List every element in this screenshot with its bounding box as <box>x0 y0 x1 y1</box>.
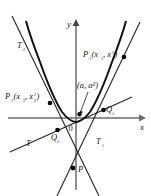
point-p2 <box>48 101 53 106</box>
svg-text:): ) <box>36 91 40 101</box>
y-axis-label: y <box>66 19 71 29</box>
point-p <box>71 166 76 171</box>
svg-text:(x: (x <box>92 49 99 59</box>
svg-text:P: P <box>82 49 88 59</box>
svg-text:2: 2 <box>57 139 59 144</box>
label-a-point: (a, a²) <box>77 80 98 90</box>
svg-text:(x: (x <box>14 91 21 101</box>
svg-text:2: 2 <box>23 47 25 52</box>
point-a <box>77 112 81 116</box>
x-axis-label: x <box>139 122 144 132</box>
svg-text:, x: , x <box>25 91 33 101</box>
origin-label: 0 <box>69 123 73 133</box>
svg-text:, x: , x <box>103 49 111 59</box>
svg-text:P: P <box>4 91 10 101</box>
svg-text:1: 1 <box>102 143 104 148</box>
math-figure: y x 0 T 2 T 1 T Q 1 Q 2 P P 1 (x 1 , x 1… <box>0 0 151 196</box>
parabola-tangent-diagram: y x 0 T 2 T 1 T Q 1 Q 2 P P 1 (x 1 , x 1… <box>0 0 151 196</box>
svg-text:1: 1 <box>112 111 114 116</box>
label-p: P <box>77 164 83 174</box>
point-p1 <box>122 55 127 60</box>
svg-text:): ) <box>114 49 118 59</box>
